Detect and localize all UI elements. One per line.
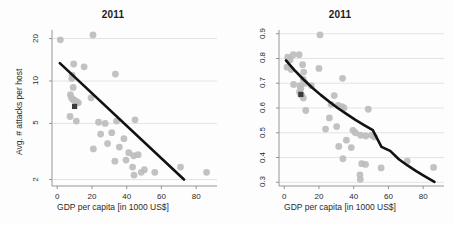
y-tick-label: 2 xyxy=(31,168,40,190)
y-tick-label: 10 xyxy=(31,70,40,92)
x-tick-label: 20 xyxy=(307,192,331,201)
chart-panel-right: 2011 % attacked hosts GDP per capita [in… xyxy=(227,0,453,225)
x-tick-label: 0 xyxy=(272,192,296,201)
panel-left-y-axis-title: Avg. # attacks per host xyxy=(14,69,24,155)
x-tick-label: 40 xyxy=(342,192,366,201)
figure-root: 2011 Avg. # attacks per host GDP per cap… xyxy=(0,0,453,225)
y-tick-label: 0.9 xyxy=(258,22,267,44)
panel-left-x-axis-title: GDP per capita [in 1000 US$] xyxy=(0,202,226,212)
y-tick-label: 0.7 xyxy=(258,72,267,94)
chart-panel-left: 2011 Avg. # attacks per host GDP per cap… xyxy=(0,0,226,225)
y-tick-label: 5 xyxy=(31,112,40,134)
y-tick-label: 0.3 xyxy=(258,171,267,193)
y-tick-label: 0.8 xyxy=(258,47,267,69)
x-tick-label: 40 xyxy=(115,192,139,201)
x-tick-label: 60 xyxy=(149,192,173,201)
x-tick-label: 20 xyxy=(80,192,104,201)
y-tick-label: 0.6 xyxy=(258,97,267,119)
x-tick-label: 80 xyxy=(411,192,435,201)
x-tick-label: 0 xyxy=(45,192,69,201)
y-tick-label: 0.5 xyxy=(258,121,267,143)
y-tick-label: 0.4 xyxy=(258,146,267,168)
x-tick-label: 80 xyxy=(184,192,208,201)
x-tick-label: 60 xyxy=(376,192,400,201)
y-tick-label: 20 xyxy=(31,27,40,49)
panel-right-x-axis-title: GDP per capita [in 1000 US$] xyxy=(227,202,453,212)
